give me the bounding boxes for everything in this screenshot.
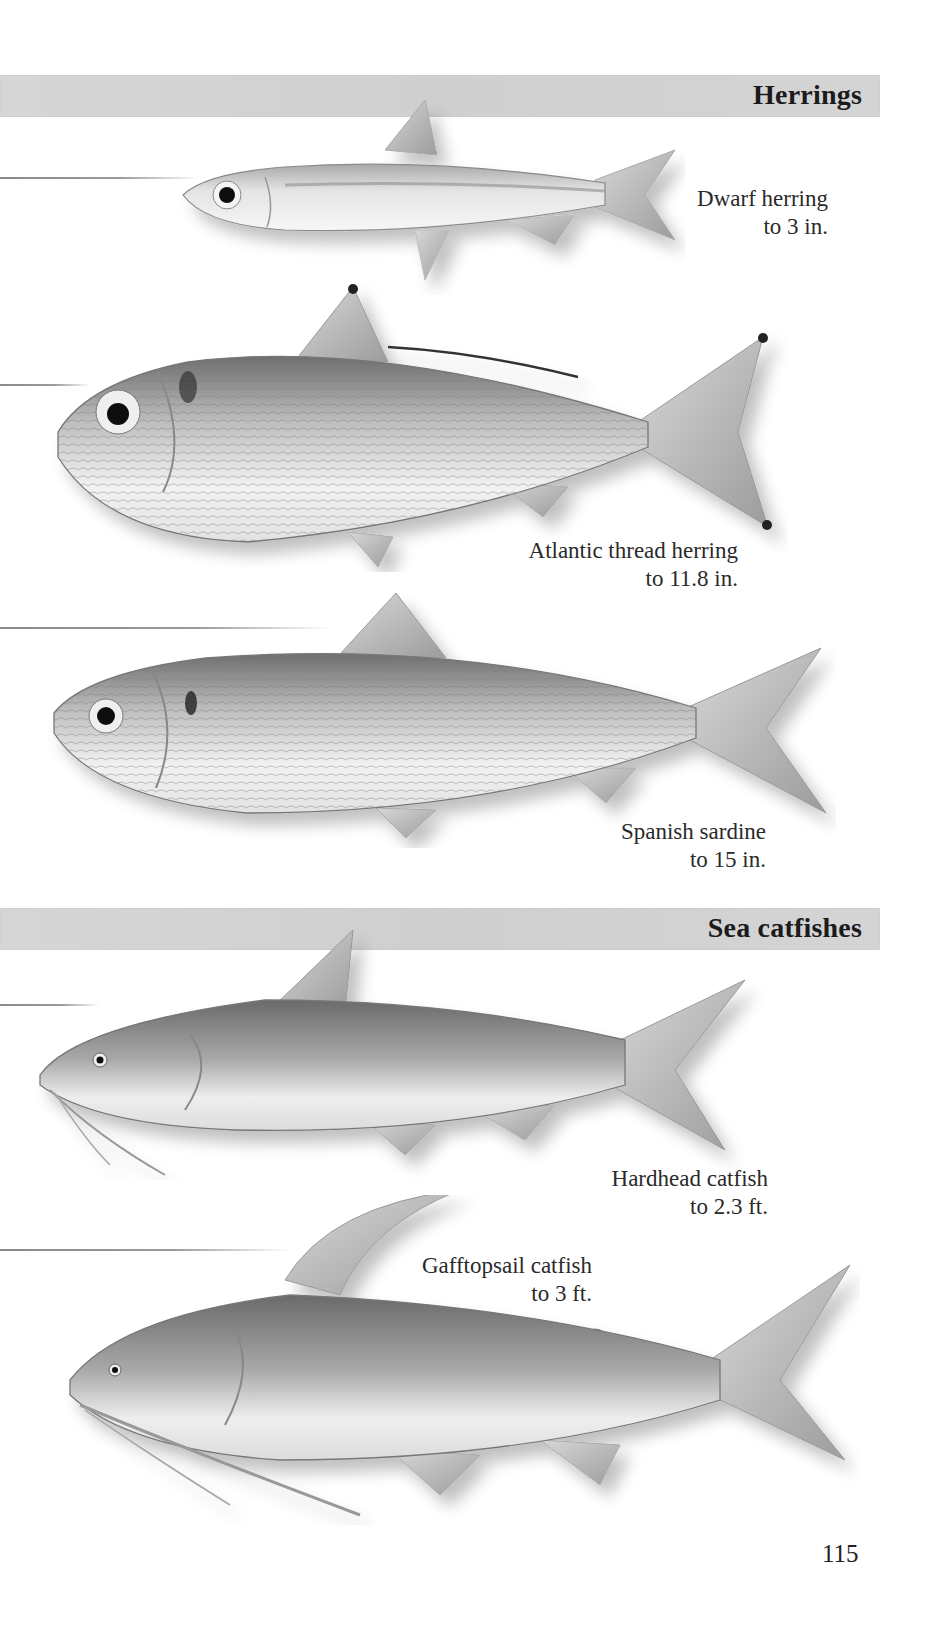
species-label-spanish-sardine: Spanish sardine to 15 in. [560,818,766,874]
page-number: 115 [822,1540,859,1568]
species-name: Spanish sardine [560,818,766,846]
species-size: to 15 in. [560,846,766,874]
hardhead-catfish-illustration [35,925,765,1180]
species-name: Hardhead catfish [568,1165,768,1193]
gafftopsail-catfish-illustration [60,1195,860,1525]
species-label-dwarf-herring: Dwarf herring to 3 in. [650,185,828,241]
species-name: Dwarf herring [650,185,828,213]
atlantic-thread-herring-illustration [48,282,788,572]
section-title: Herrings [753,79,862,111]
species-name: Atlantic thread herring [470,537,738,565]
species-label-atlantic-thread-herring: Atlantic thread herring to 11.8 in. [470,537,738,593]
species-name: Gafftopsail catfish [400,1252,592,1280]
spanish-sardine-illustration [46,588,836,848]
pointer-line [0,177,200,179]
species-size: to 3 in. [650,213,828,241]
dwarf-herring-illustration [175,95,685,295]
species-size: to 3 ft. [400,1280,592,1308]
species-label-gafftopsail-catfish: Gafftopsail catfish to 3 ft. [400,1252,592,1308]
